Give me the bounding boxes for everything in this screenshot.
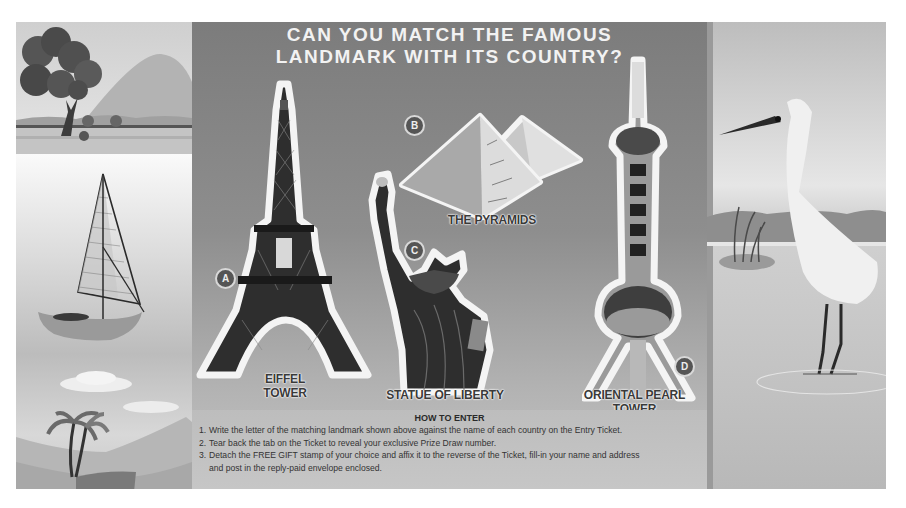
landmark-quiz-panel: CAN YOU MATCH THE FAMOUS LANDMARK WITH I…: [192, 22, 707, 489]
sailboat-scene: [16, 154, 192, 354]
tree-mountain-scene: [16, 22, 192, 154]
landscape-illustration: [16, 22, 192, 489]
step-number: 3.: [199, 449, 209, 462]
landmark-badge-b: B: [404, 115, 425, 136]
landmark-badge-c: C: [404, 240, 425, 261]
left-decorative-panel: [16, 22, 192, 489]
oriental-pearl-tower-icon: [582, 56, 702, 402]
step-item: 2.Tear back the tab on the Ticket to rev…: [199, 437, 640, 450]
right-decorative-panel: [707, 22, 886, 489]
statue-of-liberty-icon: [364, 170, 514, 406]
step-text: Tear back the tab on the Ticket to revea…: [209, 438, 496, 448]
eiffel-label-line1: EIFFEL: [250, 372, 320, 386]
title-line-1: CAN YOU MATCH THE FAMOUS: [192, 24, 707, 46]
step-text: Detach the FREE GIFT stamp of your choic…: [209, 450, 640, 460]
how-to-enter-steps: 1.Write the letter of the matching landm…: [192, 424, 640, 474]
how-to-enter-heading: HOW TO ENTER: [192, 413, 707, 423]
step-item: 3.Detach the FREE GIFT stamp of your cho…: [199, 449, 640, 474]
how-to-enter-section: HOW TO ENTER 1.Write the letter of the m…: [192, 410, 707, 489]
landmark-badge-a: A: [215, 268, 236, 289]
landmark-label-statue: STATUE OF LIBERTY: [380, 388, 510, 402]
step-number: 1.: [199, 424, 209, 437]
step-text-continuation: and post in the reply-paid envelope encl…: [199, 462, 640, 475]
heron-illustration: [707, 22, 886, 489]
step-number: 2.: [199, 437, 209, 450]
palm-beach-scene: [16, 354, 192, 489]
step-text: Write the letter of the matching landmar…: [209, 425, 622, 435]
eiffel-tower-icon: [192, 80, 382, 380]
step-item: 1.Write the letter of the matching landm…: [199, 424, 640, 437]
landmark-badge-d: D: [674, 356, 695, 377]
landmark-label-eiffel: EIFFEL TOWER: [250, 372, 320, 400]
eiffel-label-line2: TOWER: [250, 386, 320, 400]
